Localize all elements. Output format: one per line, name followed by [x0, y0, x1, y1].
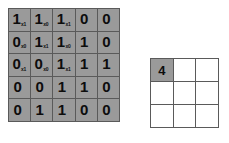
input-cell: 1 — [76, 77, 97, 99]
input-cell-value: 0 — [102, 102, 110, 117]
input-cell-value: 1 — [58, 102, 66, 117]
input-cell: 0 — [76, 9, 97, 31]
input-cell-value: 0 — [13, 102, 21, 117]
input-cell: 0 — [31, 77, 52, 99]
input-cell-value: 1 — [57, 34, 65, 49]
input-cell: 0 — [98, 32, 119, 54]
input-cell-value: 1 — [80, 79, 88, 94]
input-cell-value: 1 — [12, 11, 20, 26]
kernel-weight-label: x1 — [21, 67, 26, 72]
input-cell: 0 — [9, 99, 30, 121]
output-feature-map-grid: 4 — [150, 58, 219, 128]
output-cell — [174, 59, 196, 81]
input-cell-value: 0 — [36, 79, 44, 94]
input-cell-value: 1 — [57, 56, 65, 71]
input-cell: 0 — [98, 77, 119, 99]
input-cell: 0 — [98, 9, 119, 31]
output-cell — [174, 105, 196, 127]
input-cell: 1 — [76, 32, 97, 54]
output-cell: 4 — [151, 59, 173, 81]
input-cell: 0 — [98, 99, 119, 121]
kernel-weight-label: x0 — [21, 44, 26, 49]
output-cell — [196, 59, 218, 81]
input-cell-value: 1 — [102, 56, 110, 71]
input-cell-value: 0 — [80, 11, 88, 26]
input-cell: 1x1 — [53, 9, 74, 31]
input-cell: 0 — [76, 99, 97, 121]
kernel-weight-label: x0 — [65, 44, 70, 49]
output-cell — [151, 82, 173, 104]
output-cell-value: 4 — [158, 64, 165, 77]
input-cell: 0x1 — [9, 54, 30, 76]
kernel-weight-label: x0 — [43, 67, 48, 72]
input-cell: 1x1 — [53, 54, 74, 76]
input-cell-value: 0 — [12, 34, 20, 49]
output-cell — [196, 82, 218, 104]
kernel-weight-label: x0 — [43, 22, 48, 27]
input-cell-value: 1 — [58, 79, 66, 94]
input-cell: 1x0 — [31, 9, 52, 31]
input-cell-value: 1 — [80, 56, 88, 71]
kernel-weight-label: x1 — [65, 22, 70, 27]
input-cell-value: 1 — [35, 34, 43, 49]
kernel-weight-label: x1 — [21, 22, 26, 27]
kernel-weight-label: x1 — [65, 67, 70, 72]
input-cell-value: 0 — [80, 102, 88, 117]
input-cell: 1 — [76, 54, 97, 76]
input-cell-value: 1 — [36, 102, 44, 117]
input-cell: 1 — [98, 54, 119, 76]
input-cell: 1x1 — [9, 9, 30, 31]
input-cell-value: 0 — [13, 79, 21, 94]
input-cell-value: 0 — [35, 56, 43, 71]
input-feature-map-grid: 1x11x01x1000x01x11x0100x10x01x1110011001… — [8, 8, 120, 122]
input-cell: 1 — [31, 99, 52, 121]
output-cell — [196, 105, 218, 127]
input-cell-value: 1 — [57, 11, 65, 26]
input-cell: 1 — [53, 99, 74, 121]
kernel-weight-label: x1 — [43, 44, 48, 49]
output-cell — [151, 105, 173, 127]
input-cell: 0x0 — [31, 54, 52, 76]
input-cell: 0 — [9, 77, 30, 99]
input-cell-value: 0 — [12, 56, 20, 71]
input-cell-value: 1 — [80, 34, 88, 49]
input-cell: 1 — [53, 77, 74, 99]
input-cell: 0x0 — [9, 32, 30, 54]
input-cell-value: 1 — [35, 11, 43, 26]
output-cell — [174, 82, 196, 104]
input-cell-value: 0 — [102, 34, 110, 49]
input-cell-value: 0 — [102, 79, 110, 94]
input-cell: 1x0 — [53, 32, 74, 54]
input-cell-value: 0 — [102, 11, 110, 26]
input-cell: 1x1 — [31, 32, 52, 54]
